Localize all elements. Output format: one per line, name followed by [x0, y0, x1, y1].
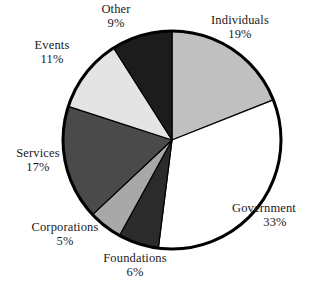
pie-label-corporations-name: Corporations — [16, 220, 114, 234]
pie-label-events-value: 11% — [8, 52, 96, 66]
pie-label-foundations-name: Foundations — [83, 251, 187, 265]
pie-label-foundations-value: 6% — [83, 265, 187, 279]
pie-label-foundations: Foundations 6% — [83, 251, 187, 279]
pie-label-government-name: Government — [232, 201, 317, 215]
pie-label-events-name: Events — [8, 38, 96, 52]
pie-label-individuals-value: 19% — [185, 27, 295, 41]
pie-label-individuals-name: Individuals — [185, 13, 295, 27]
pie-chart-figure: Other 9% Individuals 19% Events 11% Serv… — [0, 0, 317, 288]
pie-label-other-name: Other — [72, 2, 160, 16]
pie-label-other: Other 9% — [72, 2, 160, 30]
pie-label-services: Services 17% — [0, 146, 76, 174]
pie-label-services-name: Services — [0, 146, 76, 160]
pie-label-government-value: 33% — [232, 215, 317, 229]
pie-label-corporations-value: 5% — [16, 234, 114, 248]
pie-label-services-value: 17% — [0, 160, 76, 174]
pie-label-events: Events 11% — [8, 38, 96, 66]
pie-label-other-value: 9% — [72, 16, 160, 30]
pie-label-individuals: Individuals 19% — [185, 13, 295, 41]
pie-label-corporations: Corporations 5% — [16, 220, 114, 248]
pie-label-government: Government 33% — [232, 201, 317, 229]
